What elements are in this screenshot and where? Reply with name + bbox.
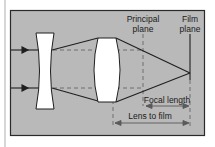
principal-plane-label-2: plane [133, 24, 154, 34]
film-plane-label-2: plane [180, 24, 201, 34]
converging-lens [94, 38, 120, 102]
principal-plane-label-1: Principal [127, 14, 160, 24]
focal-length-label: Focal length [144, 95, 191, 105]
film-plane-label-1: Film [182, 14, 198, 24]
lens-diagram: Principal plane Film plane Focal length … [0, 0, 215, 147]
lens-to-film-label: Lens to film [128, 111, 171, 121]
